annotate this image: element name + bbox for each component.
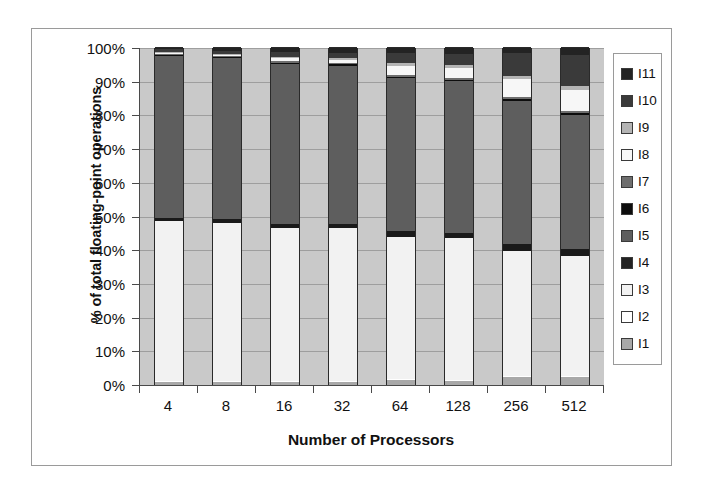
y-tick-mark <box>132 250 139 251</box>
legend-item-i10: I10 <box>621 87 661 114</box>
bar-segment-i4 <box>503 244 531 251</box>
bar-segment-i5 <box>561 115 589 249</box>
legend-item-i2: I2 <box>621 303 661 330</box>
y-tick-label: 10% <box>95 343 125 360</box>
y-tick-label: 40% <box>95 242 125 259</box>
legend-swatch-icon <box>621 68 633 80</box>
x-tick-mark <box>139 386 140 393</box>
bar-segment-i5 <box>155 56 183 218</box>
bar-segment-i11 <box>503 48 531 53</box>
gridline <box>140 183 604 184</box>
gridline <box>140 351 604 352</box>
bar-segment-i11 <box>213 48 241 51</box>
y-tick-label: 50% <box>95 208 125 225</box>
bar-segment-i4 <box>329 224 357 228</box>
bar-segment-i9 <box>445 65 473 68</box>
bar-segment-i3 <box>387 237 415 380</box>
bar-segment-i4 <box>387 231 415 236</box>
bar-segment-i5 <box>271 64 299 224</box>
legend-label: I8 <box>638 147 649 162</box>
legend-label: I1 <box>638 336 649 351</box>
y-tick-mark <box>132 149 139 150</box>
bar-segment-i10 <box>387 53 415 63</box>
legend-swatch-icon <box>621 284 633 296</box>
bar-segment-i10 <box>271 52 299 57</box>
bar-segment-i9 <box>503 76 531 79</box>
x-tick-label: 16 <box>276 397 293 414</box>
y-tick-label: 90% <box>95 73 125 90</box>
bar-stack <box>444 48 474 385</box>
bar-segment-i6 <box>155 55 183 56</box>
legend-swatch-icon <box>621 230 633 242</box>
bar-segment-i11 <box>561 48 589 55</box>
bar-segment-i11 <box>329 48 357 53</box>
legend-item-i3: I3 <box>621 276 661 303</box>
bar-segment-i7 <box>329 63 357 64</box>
y-tick-label: 30% <box>95 275 125 292</box>
bar-segment-i5 <box>503 101 531 244</box>
gridline <box>140 318 604 319</box>
y-tick-mark <box>132 115 139 116</box>
legend-label: I9 <box>638 120 649 135</box>
legend-item-i1: I1 <box>621 330 661 357</box>
bar-segment-i3 <box>213 223 241 381</box>
bar-stack <box>154 48 184 385</box>
x-tick-label: 4 <box>164 397 172 414</box>
legend-item-i4: I4 <box>621 249 661 276</box>
x-axis-title: Number of Processors <box>139 431 603 449</box>
bar-stack <box>502 48 532 385</box>
gridline <box>140 149 604 150</box>
bar-segment-i8 <box>503 79 531 97</box>
bar-segment-i5 <box>445 81 473 233</box>
bar-segment-i10 <box>445 54 473 65</box>
bar-stack <box>212 48 242 385</box>
gridline <box>140 250 604 251</box>
bar-segment-i8 <box>561 90 589 111</box>
bar-segment-i7 <box>445 78 473 80</box>
y-tick-label: 60% <box>95 174 125 191</box>
bar-segment-i7 <box>561 111 589 113</box>
x-tick-label: 64 <box>392 397 409 414</box>
bar-segment-i11 <box>271 48 299 52</box>
bar-segment-i11 <box>155 48 183 49</box>
bar-segment-i2 <box>155 381 183 382</box>
bar-segment-i3 <box>503 251 531 376</box>
bar-segment-i11 <box>387 48 415 53</box>
bar-top-cap <box>271 47 299 48</box>
y-tick-mark <box>132 318 139 319</box>
chart-legend: I11I10I9I8I7I6I5I4I3I2I1 <box>613 53 662 365</box>
bar-stack <box>328 48 358 385</box>
x-tick-mark <box>255 386 256 393</box>
bar-segment-i10 <box>561 55 589 86</box>
bar-segment-i6 <box>213 57 241 58</box>
bar-segment-i7 <box>503 97 531 99</box>
bar-segment-i10 <box>329 53 357 58</box>
bar-segment-i1 <box>445 381 473 385</box>
bar-segment-i7 <box>387 75 415 77</box>
bar-stack <box>560 48 590 385</box>
bar-segment-i7 <box>271 61 299 62</box>
x-tick-label: 512 <box>561 397 586 414</box>
legend-swatch-icon <box>621 122 633 134</box>
bar-segment-i5 <box>213 58 241 219</box>
x-tick-mark <box>487 386 488 393</box>
bar-segment-i1 <box>213 382 241 385</box>
y-tick-mark <box>132 82 139 83</box>
y-tick-label: 100% <box>87 40 125 57</box>
x-tick-label: 256 <box>503 397 528 414</box>
bar-segment-i10 <box>213 51 241 54</box>
y-tick-label: 80% <box>95 107 125 124</box>
legend-item-i7: I7 <box>621 168 661 195</box>
y-tick-mark <box>132 183 139 184</box>
gridline <box>140 217 604 218</box>
y-tick-label: 70% <box>95 141 125 158</box>
x-tick-label: 32 <box>334 397 351 414</box>
bar-segment-i1 <box>503 377 531 385</box>
bar-segment-i7 <box>155 54 183 55</box>
legend-item-i8: I8 <box>621 141 661 168</box>
x-tick-mark <box>313 386 314 393</box>
gridline <box>140 115 604 116</box>
bar-segment-i4 <box>561 249 589 256</box>
legend-swatch-icon <box>621 203 633 215</box>
bar-segment-i11 <box>445 48 473 54</box>
